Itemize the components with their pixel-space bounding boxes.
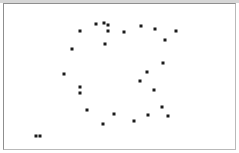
scatter-point bbox=[102, 123, 105, 126]
scatter-point bbox=[161, 106, 164, 109]
scatter-point bbox=[79, 30, 82, 33]
scatter-point bbox=[103, 22, 106, 25]
scatter-point bbox=[139, 80, 142, 83]
plot-data-area bbox=[0, 0, 239, 153]
scatter-point bbox=[39, 135, 42, 138]
scatter-point bbox=[71, 48, 74, 51]
scatter-point bbox=[140, 25, 143, 28]
scatter-plot-figure bbox=[0, 0, 239, 153]
scatter-point bbox=[104, 43, 107, 46]
scatter-point bbox=[107, 24, 110, 27]
scatter-point bbox=[162, 62, 165, 65]
scatter-point bbox=[147, 114, 150, 117]
scatter-point bbox=[86, 109, 89, 112]
scatter-point bbox=[133, 120, 136, 123]
scatter-point bbox=[123, 31, 126, 34]
scatter-point bbox=[154, 28, 157, 31]
scatter-point bbox=[167, 115, 170, 118]
scatter-point bbox=[79, 92, 82, 95]
scatter-point bbox=[107, 30, 110, 33]
scatter-point bbox=[153, 89, 156, 92]
scatter-point bbox=[175, 30, 178, 33]
scatter-point bbox=[113, 113, 116, 116]
scatter-point bbox=[146, 71, 149, 74]
scatter-point bbox=[164, 39, 167, 42]
scatter-point bbox=[63, 73, 66, 76]
scatter-point bbox=[35, 135, 38, 138]
scatter-point bbox=[95, 23, 98, 26]
scatter-point bbox=[79, 86, 82, 89]
